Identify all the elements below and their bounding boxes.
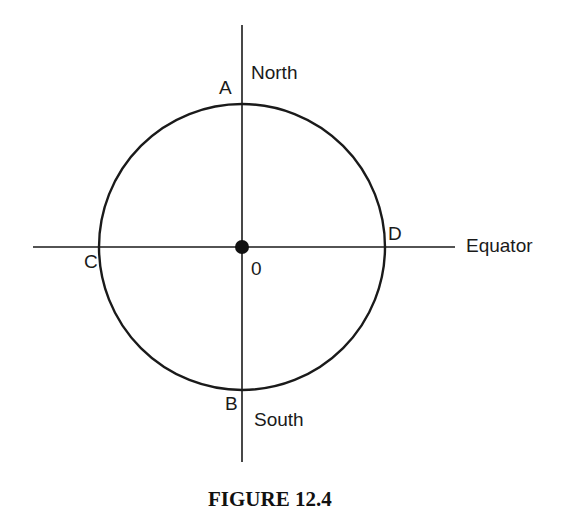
point-label-a: A — [219, 77, 232, 98]
center-point-dot — [235, 240, 249, 254]
point-label-c: C — [84, 251, 98, 272]
center-label-o: 0 — [251, 258, 262, 279]
figure-caption: FIGURE 12.4 — [208, 487, 332, 511]
point-label-b: B — [225, 393, 238, 414]
globe-diagram: A North C D Equator 0 B South FIGURE 12.… — [0, 0, 580, 522]
equator-label: Equator — [466, 235, 533, 256]
north-label: North — [251, 62, 297, 83]
south-label: South — [254, 409, 304, 430]
point-label-d: D — [388, 223, 402, 244]
